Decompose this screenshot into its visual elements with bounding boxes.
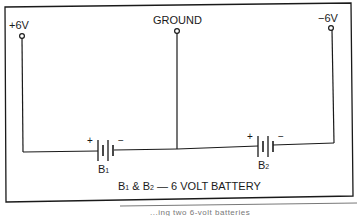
positive-terminal-label: +6V bbox=[9, 19, 29, 31]
b2-minus-sign: − bbox=[278, 131, 284, 143]
page-rule bbox=[120, 203, 357, 206]
negative-terminal-icon bbox=[329, 26, 334, 31]
wires bbox=[22, 30, 334, 152]
b2-plus-sign: + bbox=[247, 131, 253, 143]
battery-b2-icon bbox=[258, 136, 273, 157]
battery-b1-icon bbox=[98, 140, 113, 161]
b1-minus-sign: − bbox=[118, 135, 124, 147]
positive-terminal-icon bbox=[20, 34, 25, 39]
ground-terminal-icon bbox=[175, 29, 180, 34]
ground-terminal-label: GROUND bbox=[153, 14, 202, 26]
b2-label: B2 bbox=[258, 159, 269, 173]
figure-caption-fragment: ...ing two 6-volt batteries bbox=[150, 208, 250, 216]
battery-legend: B1 & B2 — 6 VOLT BATTERY bbox=[118, 180, 261, 192]
b1-label: B1 bbox=[98, 163, 109, 177]
negative-terminal-label: −6V bbox=[318, 12, 338, 24]
b1-plus-sign: + bbox=[87, 135, 93, 147]
